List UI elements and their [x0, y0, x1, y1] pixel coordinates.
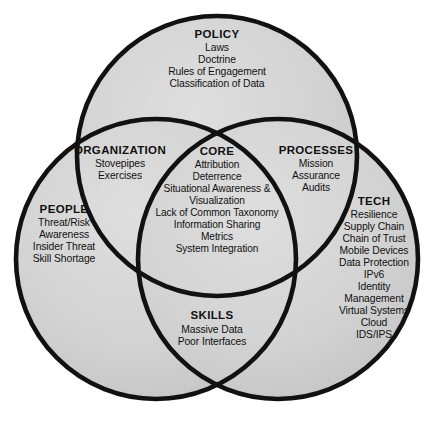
region-skills-heading: SKILLS [152, 310, 272, 322]
region-core-item: System Integration [147, 243, 287, 254]
region-tech-item: Supply Chain [327, 221, 421, 232]
region-policy-item: Doctrine [123, 54, 311, 65]
region-skills-item: Poor Interfaces [156, 336, 269, 347]
region-tech-item: Resilience [327, 209, 421, 220]
region-core-item: Visualization [147, 195, 287, 206]
region-core-heading: CORE [141, 146, 293, 158]
region-policy-item: Laws [123, 42, 311, 53]
region-people-item: Skill Shortage [15, 253, 113, 264]
venn-diagram: POLICY Laws Doctrine Rules of Engagement… [0, 0, 431, 421]
region-people-item: Threat/Risk [15, 217, 113, 228]
region-tech-item: Virtual Systems [327, 305, 421, 316]
region-tech-heading: TECH [324, 196, 424, 208]
region-people-heading: PEOPLE [12, 204, 116, 216]
region-policy-item: Classification of Data [123, 78, 311, 89]
region-policy-heading: POLICY [117, 29, 317, 41]
region-core: CORE Attribution Deterrence Situational … [141, 146, 293, 254]
region-tech-item: Chain of Trust [327, 233, 421, 244]
region-people: PEOPLE Threat/Risk Awareness Insider Thr… [12, 204, 116, 265]
region-tech-item: Identity [327, 281, 421, 292]
region-tech-item: IPv6 [327, 269, 421, 280]
region-core-item: Attribution [147, 159, 287, 170]
region-tech: TECH Resilience Supply Chain Chain of Tr… [324, 196, 424, 340]
region-core-item: Metrics [147, 231, 287, 242]
region-skills: SKILLS Massive Data Poor Interfaces [152, 310, 272, 347]
region-people-item: Insider Threat [15, 241, 113, 252]
region-policy: POLICY Laws Doctrine Rules of Engagement… [117, 29, 317, 90]
region-skills-item: Massive Data [156, 324, 269, 335]
region-core-item: Deterrence [147, 171, 287, 182]
region-people-item: Awareness [15, 229, 113, 240]
region-tech-item: Mobile Devices [327, 245, 421, 256]
region-tech-item: IDS/IPS [327, 329, 421, 340]
region-policy-item: Rules of Engagement [123, 66, 311, 77]
region-tech-item: Management [327, 293, 421, 304]
region-tech-item: Data Protection [327, 257, 421, 268]
region-core-item: Lack of Common Taxonomy [147, 207, 287, 218]
region-core-item: Situational Awareness & [147, 183, 287, 194]
region-core-item: Information Sharing [147, 219, 287, 230]
region-tech-item: Cloud [327, 317, 421, 328]
